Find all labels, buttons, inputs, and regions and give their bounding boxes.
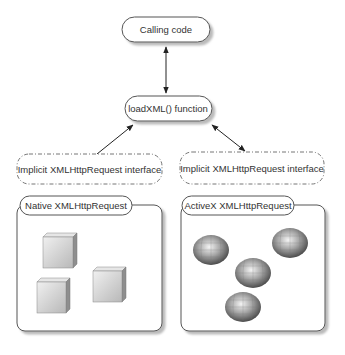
activex-xmlhttprequest-container: ActiveX XMLHttpRequest bbox=[181, 196, 325, 331]
arrow-left-interface-to-loadxml bbox=[97, 125, 133, 154]
sphere-icon bbox=[235, 258, 271, 288]
cube-icon bbox=[93, 267, 126, 302]
activex-container-label: ActiveX XMLHttpRequest bbox=[184, 200, 292, 211]
sphere-icon bbox=[225, 292, 261, 322]
right-interface-node: Implicit XMLHttpRequest interface bbox=[180, 152, 324, 184]
calling-code-label: Calling code bbox=[140, 24, 192, 35]
sphere-icon bbox=[272, 228, 308, 258]
calling-code-node: Calling code bbox=[122, 17, 210, 42]
sphere-icon bbox=[193, 235, 229, 265]
loadxml-label: loadXML() function bbox=[128, 103, 208, 114]
left-interface-label: Implicit XMLHttpRequest interface bbox=[18, 164, 162, 175]
cube-icon bbox=[37, 278, 70, 313]
left-interface-node: Implicit XMLHttpRequest interface bbox=[17, 154, 162, 184]
right-interface-label: Implicit XMLHttpRequest interface bbox=[180, 163, 324, 174]
native-container-label: Native XMLHttpRequest bbox=[25, 200, 127, 211]
arrow-loadxml-to-right-interface bbox=[212, 125, 245, 151]
loadxml-function-node: loadXML() function bbox=[125, 96, 212, 121]
architecture-diagram: Calling code loadXML() function Implicit… bbox=[0, 0, 345, 355]
cube-icon bbox=[43, 233, 77, 268]
native-xmlhttprequest-container: Native XMLHttpRequest bbox=[17, 196, 162, 331]
